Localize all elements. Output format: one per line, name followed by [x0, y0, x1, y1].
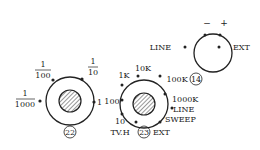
svg-text:LINE: LINE [173, 105, 194, 114]
svg-text:EXT: EXT [233, 43, 251, 52]
svg-text:SWEEP: SWEEP [165, 115, 196, 124]
dial-22[interactable]: 1 100 1 10 1 1000 1 22 [15, 57, 102, 138]
knob-hatched[interactable] [59, 90, 81, 112]
svg-text:10: 10 [115, 117, 125, 126]
svg-text:22: 22 [65, 128, 75, 137]
svg-text:100: 100 [104, 97, 119, 106]
svg-text:100K: 100K [166, 75, 188, 84]
svg-text:1: 1 [90, 57, 95, 66]
knob-hatched[interactable] [133, 93, 155, 115]
svg-text:10: 10 [88, 68, 98, 77]
svg-text:100: 100 [35, 71, 50, 80]
svg-text:−: − [203, 18, 211, 28]
svg-text:1: 1 [97, 98, 102, 107]
svg-text:+: + [220, 18, 228, 28]
dial-14[interactable]: − + LINE EXT 14 [150, 18, 251, 85]
svg-text:1K: 1K [118, 71, 130, 80]
svg-text:1: 1 [40, 60, 45, 69]
svg-text:10K: 10K [135, 64, 152, 73]
svg-text:EXT: EXT [153, 128, 171, 137]
svg-text:1: 1 [22, 89, 27, 98]
svg-text:TV.H: TV.H [110, 128, 129, 137]
svg-text:1000: 1000 [15, 100, 35, 109]
diagram: 1 100 1 10 1 1000 1 22 1K 10K 100K 1000K… [0, 0, 260, 150]
svg-text:1000K: 1000K [172, 95, 199, 104]
svg-text:14: 14 [191, 75, 201, 84]
svg-text:LINE: LINE [150, 43, 171, 52]
svg-text:23: 23 [139, 128, 149, 137]
dial-23[interactable]: 1K 10K 100K 1000K LINE SWEEP EXT TV.H 10… [104, 64, 199, 138]
